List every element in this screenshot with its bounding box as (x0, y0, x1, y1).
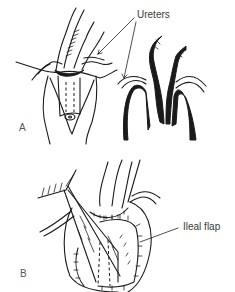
panel-b-letter: B (20, 269, 27, 279)
panel-a: Ureters A (0, 0, 235, 146)
panel-b: Ileal flap B (0, 146, 235, 292)
ileal-flap-label: Ileal flap (183, 222, 220, 232)
ileal-flap-leader (140, 228, 178, 242)
ureter-anastomosis-left (16, 8, 117, 144)
surgical-illustration: Ureters A (0, 0, 235, 292)
panel-a-letter: A (19, 123, 26, 133)
ureter-tunnels-right (118, 36, 206, 140)
panel-b-drawing (0, 146, 235, 292)
ileal-flap-reconstruction (38, 160, 160, 292)
panel-a-drawing (0, 0, 235, 146)
ureters-arrows (98, 18, 136, 78)
ureters-label: Ureters (137, 10, 170, 20)
